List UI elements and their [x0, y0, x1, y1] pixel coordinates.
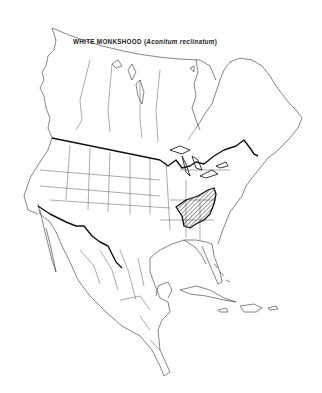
great-lakes — [170, 146, 228, 178]
species-range-area — [176, 188, 216, 228]
north-america-map — [0, 0, 322, 393]
international-borders — [38, 138, 258, 268]
coastline — [24, 28, 302, 376]
